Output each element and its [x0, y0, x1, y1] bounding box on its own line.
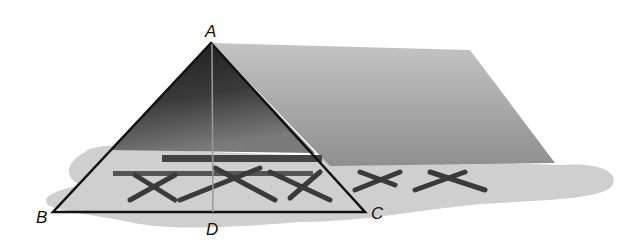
label-a: A — [204, 22, 216, 41]
label-b: B — [36, 208, 47, 227]
label-c: C — [371, 204, 384, 223]
altitude-ad — [212, 44, 213, 212]
tent-diagram: A B C D — [0, 0, 623, 251]
label-d: D — [206, 220, 218, 239]
